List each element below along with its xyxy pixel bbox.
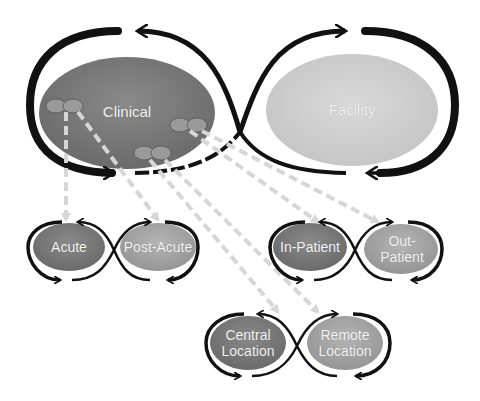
facility-label: Facility <box>329 101 376 118</box>
central-line2: Location <box>222 343 275 359</box>
out-patient-line2: Patient <box>380 249 424 265</box>
central-location-label: Central Location <box>222 327 275 359</box>
remote-line1: Remote <box>319 327 372 343</box>
out-patient-label: Out- Patient <box>380 233 424 265</box>
in-patient-label: In-Patient <box>280 239 340 255</box>
out-patient-line1: Out- <box>380 233 424 249</box>
acute-label: Acute <box>51 239 87 255</box>
clinical-label: Clinical <box>103 103 151 120</box>
post-acute-label: Post-Acute <box>124 239 192 255</box>
remote-line2: Location <box>319 343 372 359</box>
central-line1: Central <box>222 327 275 343</box>
remote-location-label: Remote Location <box>319 327 372 359</box>
